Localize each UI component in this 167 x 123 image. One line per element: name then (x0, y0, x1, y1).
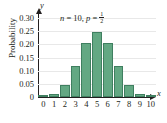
y-tick-label: 0.25 (4, 27, 34, 35)
y-tick-label: 0 (4, 93, 34, 101)
y-tick-label: 0.05 (4, 80, 34, 88)
histogram-bar (92, 32, 102, 97)
x-tick-label: 10 (143, 99, 159, 109)
histogram-bar (81, 43, 91, 97)
y-tick-label: 0.30 (4, 14, 34, 22)
annotation-equals-1: = (64, 13, 73, 23)
histogram-bar (124, 85, 134, 97)
histogram-bar (49, 94, 59, 97)
x-axis-name: x (157, 88, 161, 98)
histogram-bar (71, 66, 81, 97)
annotation-n-value: 10 (73, 13, 82, 23)
histogram-bar (135, 94, 145, 97)
histogram-bar (60, 85, 70, 97)
histogram-bar (38, 95, 48, 97)
fraction-denominator: 2 (99, 17, 104, 24)
annotation-fraction-one-half: 12 (99, 11, 104, 25)
histogram-bar (146, 95, 156, 97)
x-axis-tick-labels: 012345678910 (38, 99, 156, 113)
y-axis-tick-labels: 00.050.100.150.200.250.30 (2, 0, 34, 123)
y-tick-label: 0.10 (4, 67, 34, 75)
plot-area (38, 18, 156, 97)
histogram-bar (103, 43, 113, 97)
histogram-bar (114, 66, 124, 97)
y-axis-name: y (40, 0, 44, 10)
y-tick-label: 0.20 (4, 40, 34, 48)
annotation-equals-2: = (90, 13, 99, 23)
binomial-probability-histogram: Probability 00.050.100.150.200.250.30 y … (0, 0, 167, 123)
y-tick-label: 0.15 (4, 54, 34, 62)
parameter-annotation: n = 10, p = 12 (60, 11, 104, 25)
